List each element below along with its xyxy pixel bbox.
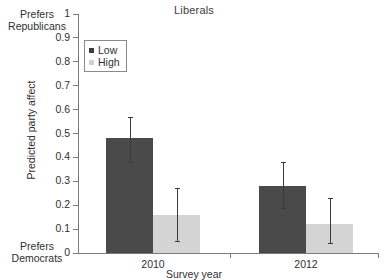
- error-bar-cap-lower: [328, 243, 333, 244]
- y-tick-mark: [73, 253, 78, 254]
- y-tick-label: 1: [64, 8, 70, 18]
- error-bar-cap-upper: [128, 117, 133, 118]
- y-tick-label: 0: [64, 247, 70, 257]
- error-bar-cap-upper: [175, 188, 180, 189]
- error-bar-2012-high: [330, 198, 331, 243]
- error-bar-cap-lower: [281, 208, 286, 209]
- y-tick-label: 0.9: [55, 32, 70, 42]
- legend-item-low: Low: [89, 44, 120, 56]
- axis-pole-note-top-line1: Prefers: [4, 8, 70, 20]
- legend-label-low: Low: [98, 45, 117, 56]
- axis-pole-note-top: Prefers Republicans: [4, 8, 70, 32]
- y-tick-mark: [73, 229, 78, 230]
- error-bar-2012-low: [283, 162, 284, 207]
- y-tick-mark: [73, 133, 78, 134]
- y-tick-mark: [73, 157, 78, 158]
- x-axis-line: [78, 253, 378, 254]
- legend-swatch-low-icon: [89, 48, 94, 53]
- error-bar-2010-high: [177, 188, 178, 241]
- legend-item-high: High: [89, 56, 120, 68]
- y-tick-mark: [73, 37, 78, 38]
- error-bar-cap-lower: [128, 162, 133, 163]
- axis-pole-note-bottom-line2: Democrats: [2, 252, 72, 264]
- y-tick-label: 0.2: [55, 199, 70, 209]
- x-tick-mark: [230, 253, 231, 258]
- axis-pole-note-bottom-line1: Prefers: [2, 240, 72, 252]
- legend-swatch-high-icon: [89, 60, 94, 65]
- y-tick-label: 0.8: [55, 56, 70, 66]
- error-bar-cap-upper: [281, 162, 286, 163]
- y-tick-label: 0.1: [55, 223, 70, 233]
- chart-figure: Liberals Prefers Republicans Prefers Dem…: [0, 0, 388, 280]
- y-tick-label: 0.3: [55, 175, 70, 185]
- y-tick-mark: [73, 85, 78, 86]
- y-tick-mark: [73, 109, 78, 110]
- axis-pole-note-bottom: Prefers Democrats: [2, 240, 72, 264]
- error-bar-2010-low: [130, 117, 131, 162]
- legend-label-high: High: [98, 57, 120, 68]
- y-axis-title: Predicted party affect: [25, 50, 37, 210]
- y-tick-label: 0.4: [55, 151, 70, 161]
- error-bar-cap-upper: [328, 198, 333, 199]
- x-tick-mark: [378, 253, 379, 258]
- y-tick-mark: [73, 181, 78, 182]
- x-axis-title: Survey year: [0, 268, 388, 280]
- y-tick-mark: [73, 205, 78, 206]
- chart-legend: Low High: [84, 40, 127, 72]
- y-axis-line: [78, 14, 79, 254]
- y-tick-label: 0.5: [55, 128, 70, 138]
- y-tick-label: 0.6: [55, 104, 70, 114]
- y-tick-mark: [73, 61, 78, 62]
- y-tick-mark: [73, 14, 78, 15]
- error-bar-cap-lower: [175, 241, 180, 242]
- y-tick-label: 0.7: [55, 80, 70, 90]
